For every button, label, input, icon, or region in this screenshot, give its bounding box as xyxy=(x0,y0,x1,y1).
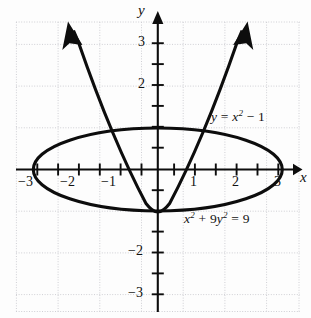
xtick-label-neg1: −1 xyxy=(101,174,116,190)
ytick-label-2: 2 xyxy=(138,76,145,92)
xtick-label-2: 2 xyxy=(232,174,239,190)
ellipse-equation-label: x2 + 9y2 = 9 xyxy=(184,209,250,227)
parabola-equation-text: y = x2 − 1 xyxy=(211,109,265,124)
xtick-label-neg3: −3 xyxy=(18,174,33,190)
graph-figure: y x −3 −2 −1 1 2 3 3 2 −2 −3 y = x2 − 1 … xyxy=(0,0,311,318)
xtick-label-1: 1 xyxy=(190,174,197,190)
xtick-label-3: 3 xyxy=(274,174,281,190)
ytick-label-3: 3 xyxy=(138,34,145,50)
coordinate-plane xyxy=(0,0,311,318)
y-axis-label: y xyxy=(138,2,145,19)
ellipse-equation-text: x2 + 9y2 = 9 xyxy=(184,211,250,226)
parabola-equation-label: y = x2 − 1 xyxy=(211,107,265,125)
ytick-label-neg3: −3 xyxy=(128,285,143,301)
xtick-label-neg2: −2 xyxy=(60,174,75,190)
x-axis-label: x xyxy=(300,169,307,186)
y-axis-arrowhead xyxy=(152,11,163,24)
ytick-label-neg2: −2 xyxy=(128,243,143,259)
